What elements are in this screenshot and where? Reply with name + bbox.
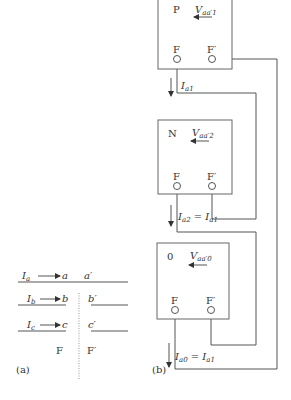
terminal-f-n-label: F [173, 171, 180, 182]
terminal-fprime-zero [208, 307, 215, 314]
terminal-fprime-zero-label: F′ [206, 295, 216, 306]
terminal-fprime-p [209, 56, 216, 63]
current-ia1-label: Ia1 [180, 80, 194, 93]
terminal-f-zero [172, 307, 179, 314]
panel-a: Ia a a′ Ib b b′ Ic c c′ F F′ (a) [16, 270, 128, 380]
fault-point-f-prime-label: F′ [87, 345, 97, 356]
network-p-label: P [173, 4, 180, 15]
network-zero-label: 0 [167, 251, 173, 262]
panel-a-caption: (a) [16, 364, 30, 375]
current-ib-label: Ib [26, 293, 36, 306]
terminal-f-p [174, 56, 181, 63]
panel-b-caption: (b) [152, 364, 166, 375]
node-a-label: a [62, 270, 68, 281]
current-ia-label: Ia [21, 270, 30, 283]
terminal-fprime-n-label: F′ [207, 171, 217, 182]
fault-point-f-label: F [56, 345, 63, 356]
terminal-fprime-n [209, 183, 216, 190]
node-b-prime-label: b′ [88, 293, 97, 304]
terminal-fprime-p-label: F′ [207, 44, 217, 55]
terminal-f-zero-label: F [171, 295, 178, 306]
terminal-f-p-label: F [173, 44, 180, 55]
node-a-prime-label: a′ [84, 270, 93, 281]
panel-b: P Vaa′1 F F′ Ia1 N Vaa′2 F F′ Ia2 = Ia1 … [152, 0, 277, 375]
node-c-label: c [62, 319, 68, 330]
terminal-f-n [174, 183, 181, 190]
diagram-canvas: Ia a a′ Ib b b′ Ic c c′ F F′ (a) P [0, 0, 291, 400]
current-ic-label: Ic [26, 319, 35, 332]
current-ia0-label: Ia0 = Ia1 [174, 351, 215, 364]
node-b-label: b [62, 293, 68, 304]
network-n-label: N [168, 128, 177, 139]
node-c-prime-label: c′ [88, 319, 97, 330]
